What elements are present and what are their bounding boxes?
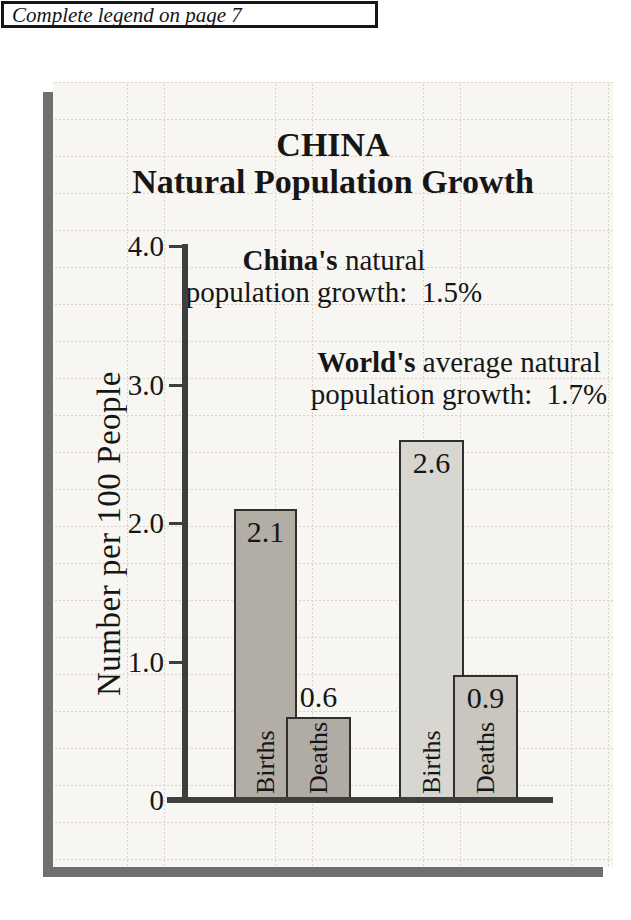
y-tick-label: 2.0 — [128, 508, 164, 538]
x-axis-line — [167, 797, 553, 803]
y-tick-label: 4.0 — [128, 231, 164, 261]
y-tick-label: 3.0 — [128, 370, 164, 400]
chart-layer: CHINA Natural Population Growth China's … — [53, 82, 613, 867]
bar-world-births-value: 2.6 — [401, 448, 462, 478]
annotation-world-bold: World's — [317, 346, 415, 378]
y-tick-mark — [169, 245, 182, 248]
bar-world-deaths-label: Deaths — [473, 722, 499, 794]
chart-subtitle: Natural Population Growth — [53, 163, 613, 200]
annotation-world-line1: World's average natural — [311, 346, 607, 378]
annotation-china: China's natural population growth: 1.5% — [186, 244, 482, 308]
bar-china-births-label: Births — [253, 730, 279, 794]
annotation-china-bold: China's — [243, 244, 338, 276]
y-tick-label: 1.0 — [128, 647, 164, 677]
bar-china-deaths-value: 0.6 — [286, 682, 351, 712]
annotation-world-line2: population growth: 1.7% — [311, 378, 607, 410]
chart-title: CHINA — [53, 126, 613, 163]
annotation-world: World's average natural population growt… — [311, 346, 607, 410]
y-tick-mark — [169, 384, 182, 387]
bar-china-deaths: Deaths — [286, 717, 351, 800]
y-tick-mark — [169, 522, 182, 525]
annotation-china-line2: population growth: 1.5% — [186, 276, 482, 308]
bar-china-deaths-label: Deaths — [306, 722, 332, 794]
y-tick-label: 0 — [150, 785, 165, 815]
bar-world-deaths-value: 0.9 — [455, 683, 516, 713]
bar-china-births-value: 2.1 — [236, 517, 295, 547]
chart-title-block: CHINA Natural Population Growth — [53, 126, 613, 200]
bar-world-deaths: 0.9 Deaths — [453, 675, 518, 800]
legend-note-box: Complete legend on page 7 — [1, 1, 378, 28]
legend-note-text: Complete legend on page 7 — [12, 3, 242, 27]
y-axis-line — [182, 244, 188, 803]
annotation-world-rest: average natural — [416, 346, 601, 378]
y-tick-1: 1.0 — [85, 647, 182, 677]
annotation-china-line1: China's natural — [186, 244, 482, 276]
bar-world-births-label: Births — [419, 730, 445, 794]
y-tick-4: 4.0 — [85, 231, 182, 261]
chart-panel: CHINA Natural Population Growth China's … — [53, 82, 613, 867]
y-tick-3: 3.0 — [85, 370, 182, 400]
annotation-china-rest: natural — [338, 244, 426, 276]
page: { "page": { "legend_note": "Complete leg… — [0, 0, 631, 920]
y-tick-mark — [169, 661, 182, 664]
y-tick-2: 2.0 — [85, 508, 182, 538]
